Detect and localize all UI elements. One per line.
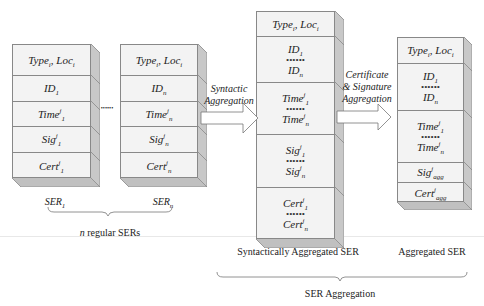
regular-sers-brace	[48, 207, 172, 216]
ser-aggregation-brace	[217, 272, 467, 281]
syntactic-aggregation-arrow	[201, 103, 258, 133]
connectors-layer	[0, 0, 484, 306]
cert-sig-aggregation-arrow	[337, 104, 391, 130]
